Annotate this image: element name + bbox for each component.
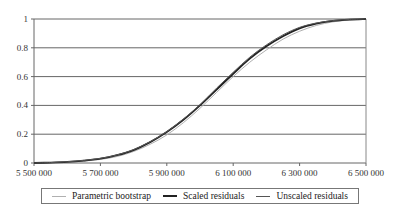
legend-item-scaled-residuals: Scaled residuals xyxy=(163,191,244,201)
legend-label: Parametric bootstrap xyxy=(72,191,151,201)
legend-label: Scaled residuals xyxy=(183,191,244,201)
legend-label: Unscaled residuals xyxy=(276,191,348,201)
gridlines xyxy=(34,19,366,134)
x-tick-label: 5 500 000 xyxy=(16,168,53,178)
legend-item-unscaled-residuals: Unscaled residuals xyxy=(256,191,348,201)
x-tick-label: 5 900 000 xyxy=(149,168,186,178)
x-axis-tick-labels: 5 500 0005 700 0005 900 0006 100 0006 30… xyxy=(16,168,385,178)
cdf-line-chart: 00.20.40.60.81 5 500 0005 700 0005 900 0… xyxy=(0,0,398,211)
x-tick-label: 6 500 000 xyxy=(348,168,385,178)
y-tick-label: 1 xyxy=(24,14,29,24)
series-line-2 xyxy=(34,19,366,163)
series-lines xyxy=(34,19,366,163)
legend-line-swatch-icon xyxy=(256,196,270,197)
y-axis-tick-labels: 00.20.40.60.81 xyxy=(17,14,29,168)
legend-line-swatch-icon xyxy=(52,196,66,197)
series-line-0 xyxy=(34,19,366,163)
x-tick-label: 5 700 000 xyxy=(82,168,119,178)
y-tick-label: 0 xyxy=(24,158,29,168)
y-tick-label: 0.4 xyxy=(17,100,29,110)
y-tick-label: 0.6 xyxy=(17,72,29,82)
y-tick-label: 0.2 xyxy=(17,129,28,139)
series-line-1 xyxy=(34,19,366,163)
legend-item-parametric-bootstrap: Parametric bootstrap xyxy=(52,191,151,201)
legend-line-swatch-icon xyxy=(163,195,177,197)
chart-legend: Parametric bootstrap Scaled residuals Un… xyxy=(41,188,359,204)
x-tick-label: 6 300 000 xyxy=(282,168,319,178)
x-tick-label: 6 100 000 xyxy=(215,168,252,178)
axes xyxy=(31,19,366,166)
y-tick-label: 0.8 xyxy=(17,43,29,53)
